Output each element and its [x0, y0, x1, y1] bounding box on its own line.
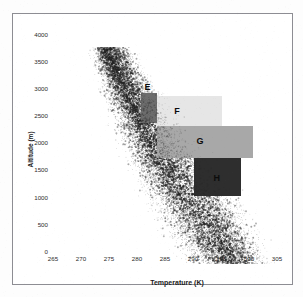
plot-frame: E F G H 265270275280285290295300305 0500…: [12, 13, 293, 285]
scatter-cloud-overlay: [65, 47, 289, 264]
region-label-g: G: [197, 136, 204, 146]
region-label-f: F: [174, 106, 180, 116]
region-label-e: E: [145, 82, 151, 92]
x-tick-label: 290: [181, 255, 205, 262]
y-tick-label: 0: [24, 248, 48, 255]
x-tick-label: 265: [41, 255, 65, 262]
x-tick-label: 300: [237, 255, 261, 262]
y-tick-label: 2500: [24, 112, 48, 119]
figure-container: E F G H 265270275280285290295300305 0500…: [0, 0, 303, 297]
y-tick-label: 3000: [24, 85, 48, 92]
y-tick-label: 500: [24, 221, 48, 228]
x-tick-label: 295: [209, 255, 233, 262]
y-tick-label: 1000: [24, 194, 48, 201]
x-tick-label: 305: [265, 255, 289, 262]
x-tick-label: 270: [69, 255, 93, 262]
x-tick-label: 285: [153, 255, 177, 262]
y-tick-label: 3500: [24, 58, 48, 65]
x-axis-title: Temperature (K): [65, 279, 289, 286]
x-tick-label: 280: [125, 255, 149, 262]
region-label-h: H: [213, 173, 220, 183]
y-tick-label: 4000: [24, 31, 48, 38]
x-tick-label: 275: [97, 255, 121, 262]
plot-area: E F G H: [65, 47, 289, 264]
y-axis-title: Altitude (m): [27, 120, 34, 180]
